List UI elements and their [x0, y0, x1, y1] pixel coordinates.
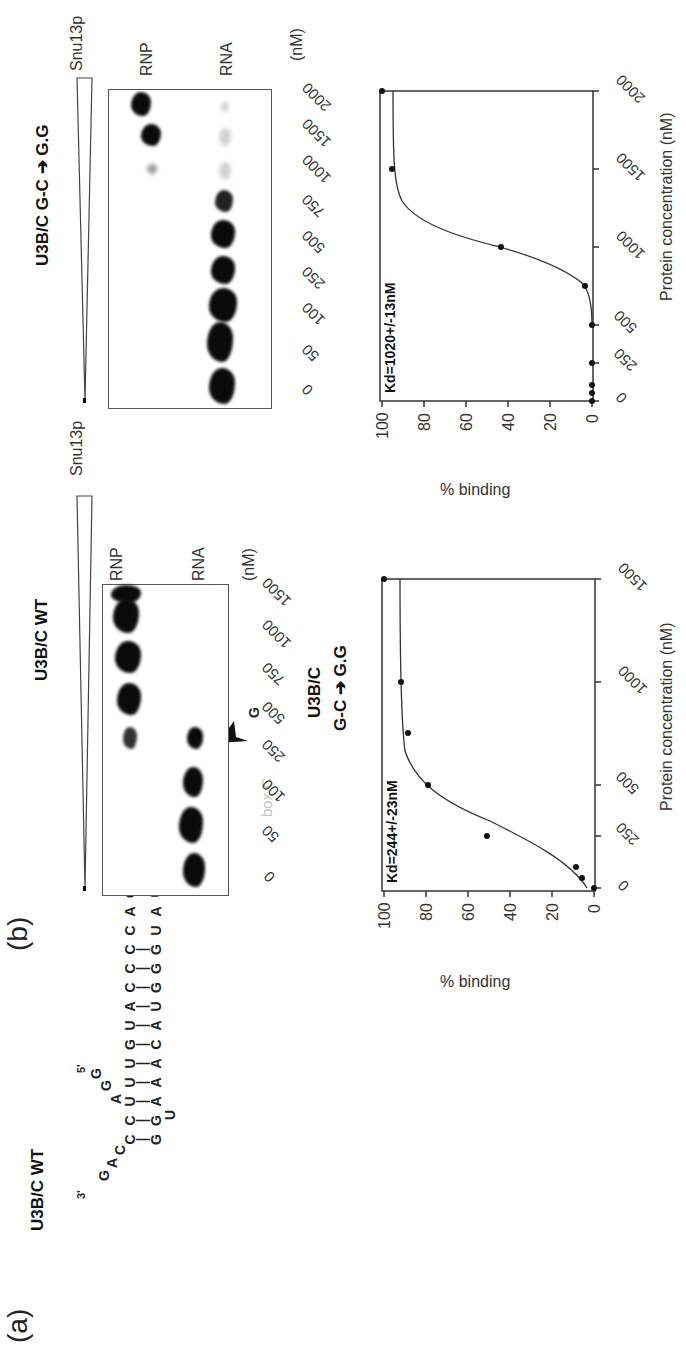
nt-3-G: G: [96, 1170, 112, 1181]
gg-kd-annotation: Kd=1020+/-13nM: [382, 283, 398, 394]
three-prime-label: 3': [75, 1190, 87, 1199]
wt-gel: [102, 584, 229, 896]
stem-pair: U — A: [122, 1016, 164, 1035]
stem-pair: C U: [122, 921, 164, 940]
gg-x-axis-label: Protein concentration (nM): [658, 112, 676, 301]
stem-pair: C — G: [122, 940, 164, 959]
five-prime-label: 5': [75, 1064, 87, 1073]
wt-gel-title: U3B/C WT: [32, 599, 52, 681]
wt-rnp-label: RNP: [108, 547, 126, 581]
stem-pair: C — G: [122, 1111, 164, 1130]
stem-pair: U — A U: [122, 1092, 164, 1111]
wt-protein-label: Snu13p: [68, 421, 86, 476]
gg-protein-gradient-wedge: [75, 73, 95, 403]
stem-pair: C — G: [122, 1130, 164, 1149]
nt-3-A: A: [104, 1158, 120, 1168]
gg-plot-svg: [320, 1, 680, 441]
wt-binding-plot: Kd=244+/-23nM 100 80 60 40 20 0 0 250 50…: [320, 531, 680, 931]
wt-kd-annotation: Kd=244+/-23nM: [384, 780, 400, 883]
stem-pair: C — G: [122, 959, 164, 978]
wt-x-axis-label: Protein concentration (nM): [658, 622, 676, 811]
wt-rna-label: RNA: [190, 547, 208, 581]
stem-pair: C — G: [122, 978, 164, 997]
nt-5-G1: G: [88, 1068, 104, 1079]
stem-pair: U — A: [122, 1054, 164, 1073]
gg-gel: [108, 89, 272, 409]
wt-lane-labels: 0 50 100 250 500 750 1000 1500: [248, 566, 288, 896]
bulge-nt: U: [162, 1110, 178, 1120]
wt-unit-label: (nM): [240, 548, 258, 581]
gg-rnp-label: RNP: [138, 42, 156, 76]
gg-unit-label: (nM): [288, 28, 306, 61]
stem-pair: A A: [122, 902, 164, 921]
gg-binding-plot: Kd=1020+/-13nM 100 80 60 40 20 0 0 250 5…: [320, 1, 680, 441]
gg-gel-title: U3B/C G-C ➔ G.G: [32, 124, 53, 266]
wt-y-axis-label: % binding: [440, 973, 510, 991]
nt-5-G2: G: [98, 1080, 114, 1091]
stem-pair: U — A: [122, 1073, 164, 1092]
gg-y-axis-label: % binding: [440, 481, 510, 499]
gg-protein-label: Snu13p: [68, 16, 86, 71]
panel-b-label: (b): [2, 917, 34, 951]
stem-pair: G — C: [122, 1035, 164, 1054]
rna-structure: 5' G G A 3' G A C: [0, 941, 686, 1361]
wt-plot-svg: [320, 531, 680, 931]
wt-protein-gradient-wedge: [75, 491, 95, 891]
stem-pair: A — U: [122, 997, 164, 1016]
gg-rna-label: RNA: [218, 42, 236, 76]
figure-canvas: (a) U3B/C WT 5' G G A 3' G A C C — G C —…: [0, 0, 686, 1361]
